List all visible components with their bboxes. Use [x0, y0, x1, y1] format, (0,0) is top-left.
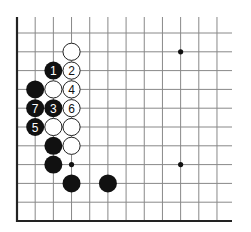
move-number: 3: [50, 102, 57, 116]
black-stone: 5: [26, 118, 44, 136]
move-number: 1: [50, 64, 57, 78]
black-stone: [44, 156, 62, 174]
black-stone: [63, 174, 81, 192]
black-stone: 7: [26, 99, 44, 117]
move-number: 5: [32, 121, 39, 135]
go-board: 1247365: [0, 0, 251, 232]
white-stone: [45, 118, 62, 135]
board-marks: [69, 162, 74, 167]
white-stone: [63, 43, 80, 60]
black-stone: [99, 174, 117, 192]
point-marker: [69, 162, 74, 167]
white-stone: [63, 137, 80, 154]
black-stone: 3: [44, 99, 62, 117]
go-diagram: 1247365: [0, 0, 251, 232]
move-number: 6: [68, 102, 75, 116]
white-stone: [45, 81, 62, 98]
black-stone: 1: [44, 62, 62, 80]
white-stone: 6: [63, 100, 80, 117]
black-stone: [26, 80, 44, 98]
white-stone: 4: [63, 81, 80, 98]
move-number: 4: [68, 83, 75, 97]
move-number: 7: [32, 102, 39, 116]
black-stone: [44, 137, 62, 155]
star-point: [178, 162, 183, 167]
white-stone: [63, 118, 80, 135]
move-number: 2: [68, 64, 75, 78]
star-point: [178, 49, 183, 54]
white-stone: 2: [63, 62, 80, 79]
